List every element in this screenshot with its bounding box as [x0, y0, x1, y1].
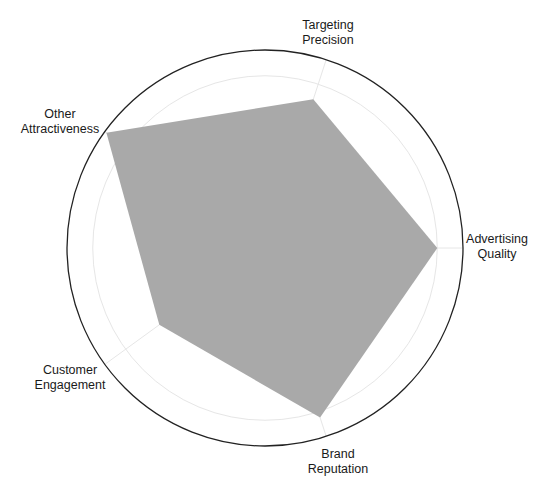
axis-label-targeting-precision: TargetingPrecision: [302, 18, 353, 47]
axis-label-advertising-quality: AdvertisingQuality: [466, 232, 528, 261]
radar-series-area: [106, 99, 437, 417]
radar-chart: TargetingPrecisionAdvertisingQualityBran…: [0, 0, 545, 492]
axis-label-other-attractiveness: OtherAttractiveness: [21, 107, 100, 136]
axis-label-customer-engagement: CustomerEngagement: [35, 363, 106, 392]
radar-series: [106, 99, 437, 417]
axis-label-brand-reputation: BrandReputation: [308, 447, 369, 476]
